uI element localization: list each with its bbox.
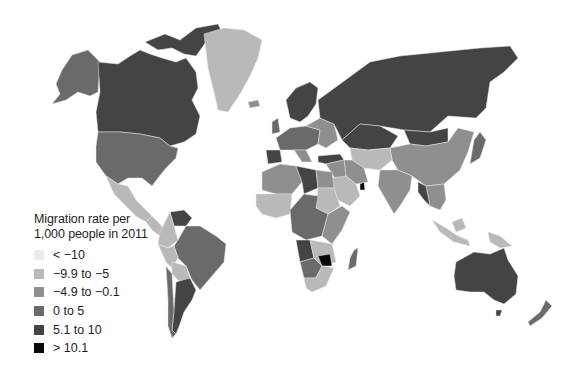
legend-swatch: [34, 325, 44, 335]
legend-item: 0 to 5: [34, 302, 148, 321]
region-canada: [96, 50, 200, 146]
region-north-africa: [262, 164, 302, 194]
region-egypt: [316, 170, 334, 188]
legend-title-line2: 1,000 people in 2011: [34, 227, 148, 242]
legend-label: 5.1 to 10: [53, 323, 102, 337]
legend-item: 5.1 to 10: [34, 320, 148, 339]
region-new-zealand: [528, 300, 552, 326]
region-greenland: [204, 28, 262, 112]
legend-label: −4.9 to −0.1: [53, 285, 120, 299]
legend-label: < −10: [53, 248, 85, 262]
region-argentina: [172, 278, 196, 334]
legend-swatch: [34, 269, 44, 279]
region-italy-balkans: [294, 150, 312, 162]
region-southeast-asia: [426, 184, 446, 210]
legend-swatch: [34, 287, 44, 297]
legend-item: > 10.1: [34, 339, 148, 358]
legend-label: −9.9 to −5: [53, 267, 109, 281]
legend-swatch: [34, 343, 44, 353]
region-alaska: [52, 50, 100, 104]
region-new-guinea: [488, 232, 512, 248]
region-madagascar: [348, 248, 358, 270]
region-scandinavia: [286, 82, 318, 122]
region-russia: [318, 46, 518, 140]
region-borneo: [452, 218, 466, 232]
map-legend: Migration rate per 1,000 people in 2011 …: [34, 212, 148, 358]
region-west-africa: [256, 194, 292, 218]
legend-title: Migration rate per 1,000 people in 2011: [34, 212, 148, 242]
legend-item: < −10: [34, 246, 148, 265]
region-iceland: [248, 100, 260, 108]
legend-swatch: [34, 250, 44, 260]
region-india: [378, 170, 412, 214]
region-tasmania: [496, 310, 502, 316]
legend-label: 0 to 5: [53, 304, 84, 318]
legend-items: < −10 −9.9 to −5 −4.9 to −0.1 0 to 5 5.1…: [34, 246, 148, 358]
region-uk: [272, 118, 280, 134]
legend-label: > 10.1: [53, 341, 88, 355]
legend-title-line1: Migration rate per: [34, 212, 148, 227]
region-western-europe: [276, 126, 320, 150]
region-spain: [266, 150, 282, 164]
region-australia: [454, 248, 518, 304]
legend-item: −4.9 to −0.1: [34, 283, 148, 302]
legend-swatch: [34, 306, 44, 316]
legend-item: −9.9 to −5: [34, 265, 148, 284]
